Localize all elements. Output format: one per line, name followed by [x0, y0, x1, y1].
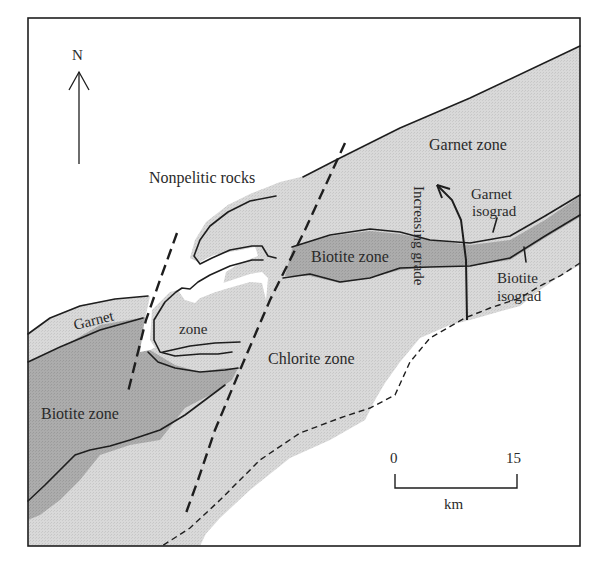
label-biotite-isograd-2: isograd	[497, 288, 542, 304]
label-garnet-isograd-1: Garnet	[471, 186, 513, 202]
label-biotite-zone-west: Biotite zone	[41, 405, 119, 422]
label-nonpelitic-rocks: Nonpelitic rocks	[149, 169, 255, 187]
label-biotite-isograd-1: Biotite	[497, 270, 538, 286]
scale-start: 0	[390, 450, 398, 466]
scale-unit: km	[444, 496, 464, 512]
north-label: N	[72, 47, 83, 63]
label-increasing-grade: Increasing grade	[411, 186, 427, 286]
label-garnet-isograd-2: isograd	[472, 203, 517, 219]
scale-end: 15	[506, 450, 521, 466]
label-garnet-zone: Garnet zone	[429, 136, 507, 153]
label-chlorite-zone: Chlorite zone	[268, 350, 355, 367]
label-biotite-zone-center: Biotite zone	[311, 248, 389, 265]
label-zone-west: zone	[179, 321, 208, 337]
metamorphic-zone-map: N Nonpelitic rocks Garnet zone Garnet is…	[0, 0, 604, 569]
